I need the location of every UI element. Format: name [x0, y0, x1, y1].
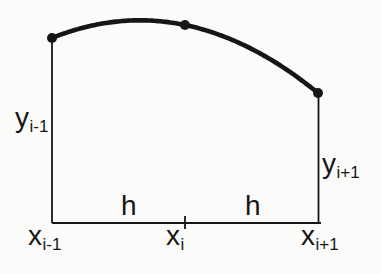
- label-base: x: [166, 220, 181, 251]
- label-base: x: [28, 220, 43, 251]
- label-subscript: i+1: [316, 235, 339, 254]
- label-y-i-plus-1: yi+1: [322, 150, 360, 178]
- label-x-i: xi: [166, 222, 184, 250]
- label-base: y: [322, 148, 337, 179]
- label-subscript: i+1: [337, 163, 360, 182]
- label-subscript: i-1: [30, 117, 49, 136]
- label-base: y: [15, 102, 30, 133]
- label-x-i-plus-1: xi+1: [301, 222, 339, 250]
- label-y-i-minus-1: yi-1: [15, 104, 48, 132]
- data-point-middle: [180, 20, 190, 30]
- label-x-i-minus-1: xi-1: [28, 222, 61, 250]
- data-point-left: [47, 33, 57, 43]
- label-base: x: [301, 220, 316, 251]
- label-h-right-interval: h: [245, 192, 261, 220]
- figure: yi-1 yi+1 h h xi-1 xi xi+1: [0, 0, 381, 274]
- interpolating-curve: [52, 20, 318, 93]
- label-subscript: i: [181, 235, 185, 254]
- label-h-left-interval: h: [121, 192, 137, 220]
- data-point-right: [313, 88, 323, 98]
- label-subscript: i-1: [43, 235, 62, 254]
